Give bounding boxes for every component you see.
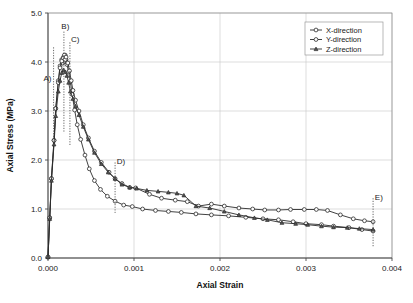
data-point-marker <box>87 167 91 171</box>
data-point-marker <box>160 196 164 200</box>
series-y-direction <box>46 53 375 259</box>
annotation-label-C: C) <box>71 35 80 44</box>
stress-strain-chart-figure: A)B)C)D)E) 0.01.02.03.04.05.00.0000.0010… <box>0 0 413 303</box>
data-point-marker <box>66 61 70 65</box>
data-point-marker <box>52 142 56 146</box>
y-tick-label: 1.0 <box>31 205 43 214</box>
data-point-marker <box>99 188 103 192</box>
annotation-label-D: D) <box>117 157 126 166</box>
x-tick-label: 0.001 <box>124 264 145 273</box>
data-point-marker <box>210 213 214 217</box>
data-point-marker <box>277 208 281 212</box>
data-point-marker <box>194 212 198 216</box>
data-point-marker <box>167 210 171 214</box>
data-point-marker <box>222 210 226 214</box>
y-axis-title: Axial Stress (MPa) <box>5 98 15 172</box>
data-point-marker <box>54 114 58 118</box>
data-point-marker <box>73 108 77 112</box>
data-point-marker <box>280 221 284 225</box>
legend-item-label: X-direction <box>326 26 362 35</box>
data-point-marker <box>64 55 68 59</box>
data-point-marker <box>167 190 171 194</box>
data-point-marker <box>179 211 183 215</box>
data-point-marker <box>185 200 189 204</box>
data-point-marker <box>77 113 81 117</box>
data-point-marker <box>251 207 255 211</box>
data-point-marker <box>208 206 212 210</box>
data-point-marker <box>105 194 109 198</box>
data-point-marker <box>58 66 62 70</box>
annotation-label-B: B) <box>61 22 69 31</box>
data-point-marker <box>79 138 83 142</box>
data-point-marker <box>65 74 69 78</box>
data-point-marker <box>93 179 97 183</box>
data-point-marker <box>237 206 241 210</box>
x-axis-title: Axial Strain <box>197 280 244 290</box>
data-series-group <box>46 53 375 259</box>
y-tick-label: 2.0 <box>31 156 43 165</box>
data-point-marker <box>145 188 149 192</box>
data-point-marker <box>265 218 269 222</box>
annotation-label-A: A) <box>43 74 51 83</box>
data-point-marker <box>302 208 306 212</box>
series-polyline <box>48 70 373 257</box>
data-point-marker <box>173 198 177 202</box>
y-tick-label: 3.0 <box>31 107 43 116</box>
data-point-marker <box>351 217 355 221</box>
x-tick-label: 0.002 <box>210 264 231 273</box>
y-tick-label: 4.0 <box>31 58 43 67</box>
x-tick-label: 0.000 <box>38 264 59 273</box>
data-point-marker <box>141 207 145 211</box>
annotations-group: A)B)C)D)E) <box>43 22 383 247</box>
data-point-marker <box>357 227 361 231</box>
data-point-marker <box>289 208 293 212</box>
data-point-marker <box>56 90 60 94</box>
data-point-marker <box>314 208 318 212</box>
series-z-direction <box>46 68 375 259</box>
legend[interactable]: X-directionY-directionZ-direction <box>305 22 383 55</box>
x-tick-label: 0.003 <box>296 264 317 273</box>
data-point-marker <box>156 189 160 193</box>
data-point-marker <box>210 202 214 206</box>
data-point-marker <box>222 204 226 208</box>
data-point-marker <box>237 213 241 217</box>
y-tick-label: 0.0 <box>31 254 43 263</box>
data-point-marker <box>154 209 158 213</box>
data-point-marker <box>75 123 79 127</box>
legend-item-label: Z-direction <box>326 45 361 54</box>
data-point-marker <box>227 214 231 218</box>
data-point-marker <box>175 191 179 195</box>
data-point-marker <box>182 193 186 197</box>
data-point-marker <box>83 153 87 157</box>
data-point-marker <box>277 218 281 222</box>
data-point-marker <box>363 219 367 223</box>
data-point-marker <box>314 38 318 42</box>
series-x-direction <box>46 53 375 259</box>
data-point-marker <box>130 205 134 209</box>
chart-canvas: A)B)C)D)E) 0.01.02.03.04.05.00.0000.0010… <box>0 0 413 303</box>
legend-item-label: Y-direction <box>326 35 361 44</box>
y-tick-label: 5.0 <box>31 9 43 18</box>
data-point-marker <box>148 192 152 196</box>
x-tick-label: 0.004 <box>382 264 403 273</box>
data-point-marker <box>122 203 126 207</box>
data-point-marker <box>314 28 318 32</box>
data-point-marker <box>339 213 343 217</box>
data-point-marker <box>71 97 75 101</box>
annotation-label-E: E) <box>375 193 383 202</box>
data-point-marker <box>326 209 330 213</box>
data-point-marker <box>253 216 257 220</box>
data-point-marker <box>263 208 267 212</box>
